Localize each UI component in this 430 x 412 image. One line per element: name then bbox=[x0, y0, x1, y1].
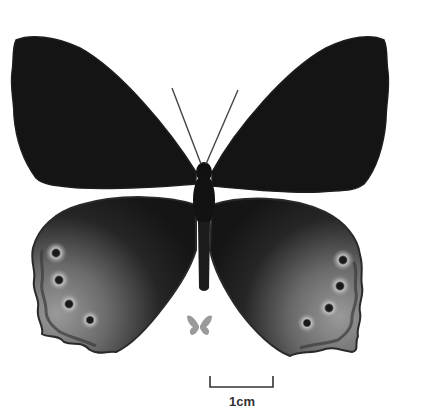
butterfly-illustration bbox=[0, 0, 430, 412]
scale-bar bbox=[210, 376, 273, 387]
left-forewing bbox=[11, 37, 196, 189]
right-forewing bbox=[212, 37, 389, 193]
size-reference-butterfly-icon bbox=[187, 315, 212, 335]
scale-bar-label: 1cm bbox=[214, 394, 270, 409]
